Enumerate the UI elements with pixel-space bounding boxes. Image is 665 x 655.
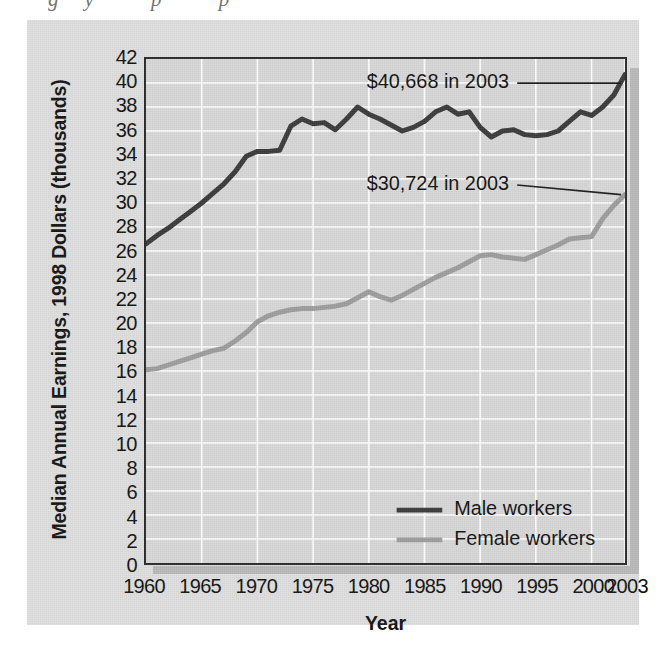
ghost-text-top: gy p p xyxy=(48,0,255,12)
y-tick-label: 34 xyxy=(116,144,137,164)
page-top-ghost-strip: gy p p xyxy=(0,0,665,22)
y-tick-label: 6 xyxy=(126,482,137,502)
x-tick-label: 2003 xyxy=(606,576,648,596)
x-tick-label: 1985 xyxy=(404,576,446,596)
x-axis-title: Year xyxy=(144,612,627,635)
x-axis-tick-labels: 1960196519701975198019851990199520002003 xyxy=(27,576,665,606)
x-tick-label: 1990 xyxy=(460,576,502,596)
y-tick-label: 14 xyxy=(116,386,137,406)
x-tick-label: 1970 xyxy=(235,576,277,596)
x-tick-label: 1960 xyxy=(123,576,165,596)
y-tick-label: 12 xyxy=(116,410,137,430)
legend-label: Male workers xyxy=(454,497,572,519)
y-tick-label: 10 xyxy=(116,434,137,454)
plot-drop-shadow-bottom xyxy=(153,566,639,574)
figure-panel: Median Annual Earnings, 1998 Dollars (th… xyxy=(27,20,639,625)
y-tick-label: 22 xyxy=(116,289,137,309)
y-tick-label: 32 xyxy=(116,168,137,188)
y-tick-label: 20 xyxy=(116,313,137,333)
y-tick-label: 30 xyxy=(116,192,137,212)
y-axis-title: Median Annual Earnings, 1998 Dollars (th… xyxy=(48,50,71,570)
x-tick-label: 1980 xyxy=(348,576,390,596)
y-tick-label: 28 xyxy=(116,216,137,236)
y-tick-label: 8 xyxy=(126,458,137,478)
y-axis-tick-labels: 024681012141618202224262830323436384042 xyxy=(84,51,137,579)
legend: Male workersFemale workers xyxy=(146,59,625,563)
y-tick-label: 42 xyxy=(116,47,137,67)
y-tick-label: 16 xyxy=(116,361,137,381)
legend-label: Female workers xyxy=(454,527,595,549)
y-tick-label: 40 xyxy=(116,71,137,91)
y-tick-label: 2 xyxy=(126,531,137,551)
y-tick-label: 26 xyxy=(116,241,137,261)
y-tick-label: 36 xyxy=(116,120,137,140)
y-tick-label: 18 xyxy=(116,337,137,357)
y-tick-label: 0 xyxy=(126,555,137,575)
y-tick-label: 38 xyxy=(116,95,137,115)
x-tick-label: 1995 xyxy=(516,576,558,596)
x-tick-label: 1975 xyxy=(292,576,334,596)
x-tick-label: 1965 xyxy=(179,576,221,596)
y-tick-label: 24 xyxy=(116,265,137,285)
plot-drop-shadow-right xyxy=(630,68,639,573)
plot-area: $40,668 in 2003$30,724 in 2003 Male work… xyxy=(144,57,627,565)
y-tick-label: 4 xyxy=(126,507,137,527)
